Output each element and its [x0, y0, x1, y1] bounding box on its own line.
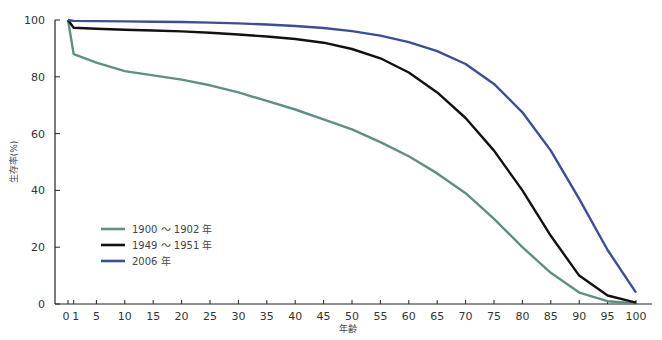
y-tick-label: 60 — [31, 128, 45, 141]
x-tick-label: 45 — [317, 310, 331, 323]
legend-label: 1900 ～ 1902 年 — [132, 223, 212, 235]
x-axis-label: 年齢 — [339, 323, 357, 334]
x-tick-label: 25 — [203, 310, 217, 323]
x-tick-label: 0 — [63, 310, 70, 323]
x-tick-label: 1 — [72, 310, 79, 323]
x-tick-label: 40 — [288, 310, 302, 323]
x-tick-label: 70 — [459, 310, 473, 323]
y-tick-label: 20 — [31, 241, 45, 254]
x-tick-label: 80 — [515, 310, 529, 323]
x-tick-label: 85 — [544, 310, 558, 323]
x-tick-label: 55 — [373, 310, 387, 323]
x-tick-label: 60 — [402, 310, 416, 323]
y-tick-label: 0 — [38, 298, 45, 311]
x-tick-label: 30 — [231, 310, 245, 323]
series-line-2 — [68, 20, 636, 293]
y-axis-label: 生存率(%) — [8, 141, 19, 184]
y-tick-label: 80 — [31, 71, 45, 84]
y-tick-label: 100 — [24, 14, 45, 27]
survival-rate-chart: 0204060801000151015202530354045505560657… — [0, 0, 662, 340]
x-tick-label: 10 — [118, 310, 132, 323]
x-tick-label: 20 — [175, 310, 189, 323]
x-tick-label: 65 — [430, 310, 444, 323]
legend: 1900 ～ 1902 年1949 ～ 1951 年2006 年 — [101, 223, 212, 267]
x-tick-label: 50 — [345, 310, 359, 323]
x-tick-label: 100 — [626, 310, 647, 323]
x-tick-label: 95 — [601, 310, 615, 323]
legend-label: 2006 年 — [132, 255, 171, 267]
x-tick-label: 15 — [146, 310, 160, 323]
x-tick-label: 75 — [487, 310, 501, 323]
x-tick-label: 90 — [572, 310, 586, 323]
x-tick-label: 5 — [93, 310, 100, 323]
y-tick-label: 40 — [31, 184, 45, 197]
legend-label: 1949 ～ 1951 年 — [132, 239, 212, 251]
x-tick-label: 35 — [260, 310, 274, 323]
